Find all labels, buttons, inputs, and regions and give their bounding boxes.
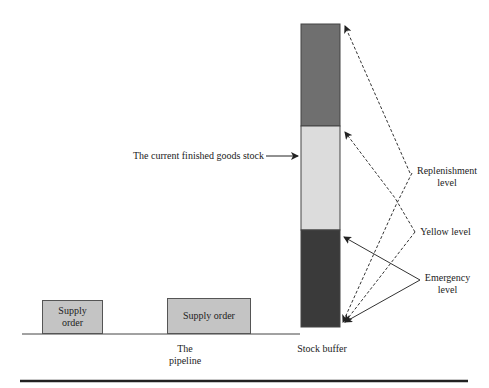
emergency-line2: level <box>420 284 475 296</box>
emergency-arrow-bottom <box>345 280 420 322</box>
replenishment-line2: level <box>412 177 482 189</box>
pipeline-label-line2: pipeline <box>160 355 210 367</box>
emergency-line1: Emergency <box>420 272 475 284</box>
supply-order-box-1: Supply order <box>42 300 103 334</box>
replenishment-arrow-bottom <box>343 173 412 322</box>
stock-buffer-label: Stock buffer <box>290 343 354 355</box>
emergency-zone <box>301 230 340 327</box>
replenishment-arrow-top <box>345 26 410 173</box>
yellow-arrow-top <box>345 132 415 232</box>
pipeline-label: The pipeline <box>160 343 210 367</box>
yellow-zone <box>301 126 340 230</box>
replenishment-level-label: Replenishment level <box>412 165 482 189</box>
supply-order-box-2: Supply order <box>167 298 251 334</box>
yellow-arrow-bottom <box>345 232 415 322</box>
replenishment-zone <box>301 24 340 126</box>
replenishment-line1: Replenishment <box>412 165 482 177</box>
yellow-level-label: Yellow level <box>418 226 473 238</box>
emergency-level-label: Emergency level <box>420 272 475 296</box>
current-stock-label: The current finished goods stock <box>112 150 264 162</box>
pipeline-label-line1: The <box>160 343 210 355</box>
emergency-arrow-top <box>344 237 420 280</box>
